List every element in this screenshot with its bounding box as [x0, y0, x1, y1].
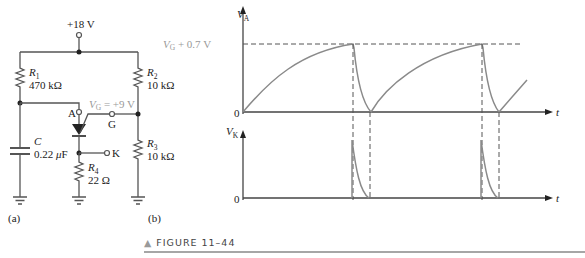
gate-junction-dot — [136, 112, 141, 117]
terminal-k — [105, 151, 110, 156]
caption-text: ▲FIGURE 11–44 — [144, 237, 235, 248]
vk-t-arrow-icon — [545, 195, 553, 201]
panel-label-b: (b) — [148, 212, 161, 225]
vk-axis-arrow-icon — [240, 130, 246, 138]
ground-icon — [13, 197, 27, 204]
panel-label-a: (a) — [8, 212, 21, 225]
supply-terminal — [77, 33, 82, 38]
cap-label: C — [34, 135, 42, 147]
r1-value: 470 kΩ — [29, 79, 62, 91]
va-axis-label: VA — [237, 8, 250, 23]
r2-value: 10 kΩ — [147, 79, 174, 91]
va-t-label: t — [556, 106, 560, 118]
capacitor-icon — [10, 148, 30, 154]
terminal-k-label: K — [112, 147, 120, 159]
gate-wire — [80, 114, 110, 133]
vk-t-label: t — [556, 192, 560, 204]
terminal-g-label: G — [108, 118, 116, 130]
ground-icon — [72, 197, 86, 204]
vk-axis-label: VK — [226, 125, 239, 140]
r4-resistor-icon — [75, 153, 83, 197]
cap-value: 0.22 μF — [34, 148, 68, 160]
vk-pulse-1 — [352, 140, 369, 198]
r3-resistor-icon — [134, 137, 142, 197]
vk-zero-label: 0 — [234, 193, 240, 205]
vg-label: VG = +9 V — [89, 98, 135, 112]
terminal-g — [110, 112, 115, 117]
vk-pulse-2 — [481, 140, 498, 198]
r3-value: 10 kΩ — [147, 150, 174, 162]
r2-resistor-icon — [134, 52, 142, 137]
circuit-schematic: +18 V R1 470 kΩ R2 10 kΩ A VG = +9 V G — [8, 18, 174, 225]
figure-11-44: +18 V R1 470 kΩ R2 10 kΩ A VG = +9 V G — [0, 0, 585, 258]
supply-label: +18 V — [67, 18, 95, 30]
r1-resistor-icon — [16, 52, 24, 103]
va-zero-label: 0 — [234, 107, 240, 119]
va-t-arrow-icon — [545, 109, 553, 115]
r4-value: 22 Ω — [88, 174, 110, 186]
terminal-a-label: A — [68, 107, 76, 119]
top-junction-dot — [77, 50, 82, 55]
threshold-label: VG + 0.7 V — [163, 38, 211, 52]
ground-icon — [131, 197, 145, 204]
figure-caption: ▲FIGURE 11–44 — [144, 237, 585, 252]
waveforms: VA t 0 VG + 0.7 V VK t 0 (b) — [148, 6, 560, 225]
scr-icon — [72, 124, 86, 135]
terminal-a — [77, 110, 82, 115]
va-waveform — [243, 44, 527, 112]
